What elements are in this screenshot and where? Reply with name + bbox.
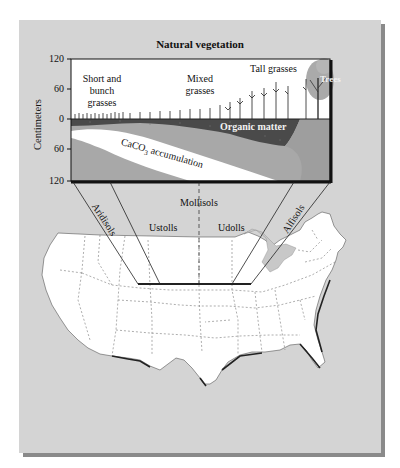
us-map-outline bbox=[42, 212, 346, 384]
label-mollisols: Mollisols bbox=[180, 197, 218, 208]
short-line-1: Short and bbox=[74, 73, 130, 85]
mixed-line-2: grasses bbox=[175, 85, 225, 97]
label-tall-grasses: Tall grasses bbox=[250, 63, 297, 75]
tick-120-top: 120 bbox=[36, 53, 64, 64]
short-line-2: bunch bbox=[74, 85, 130, 97]
label-trees: Trees bbox=[320, 74, 341, 84]
tick-120-bottom: 120 bbox=[36, 175, 64, 186]
mixed-line-1: Mixed bbox=[175, 73, 225, 85]
short-line-3: grasses bbox=[74, 97, 130, 109]
label-mixed-grasses: Mixed grasses bbox=[175, 73, 225, 97]
diagram-graphics bbox=[0, 0, 400, 468]
label-organic-matter: Organic matter bbox=[220, 121, 286, 132]
label-short-grasses: Short and bunch grasses bbox=[74, 73, 130, 109]
label-udolls: Udolls bbox=[218, 222, 245, 233]
diagram-title: Natural vegetation bbox=[0, 38, 400, 50]
us-map bbox=[42, 212, 346, 386]
tick-60-top: 60 bbox=[36, 83, 64, 94]
y-axis-label: Centimeters bbox=[32, 99, 43, 150]
label-ustolls: Ustolls bbox=[149, 222, 177, 233]
